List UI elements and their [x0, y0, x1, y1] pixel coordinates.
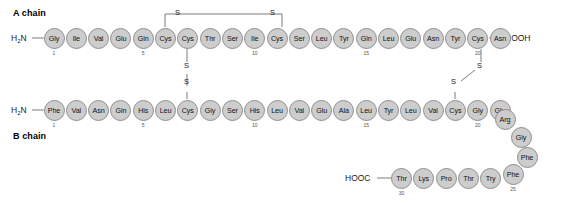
- residue-b16: Tyr: [378, 100, 399, 121]
- residue-b29: Lys: [413, 168, 434, 189]
- residue-b24: Phe: [517, 147, 538, 168]
- residue-b3: Asn: [88, 100, 109, 121]
- residue-b22: Arg: [495, 109, 516, 130]
- residue-number-b20: 20: [471, 122, 485, 128]
- n-terminus-subscript-b: 2: [17, 110, 20, 116]
- sulfur-label-a7: S: [184, 62, 189, 70]
- n-terminus-subscript: 2: [17, 38, 20, 44]
- residue-number-a5: 5: [136, 50, 150, 56]
- residue-b7: Cys: [177, 100, 198, 121]
- residue-number-a15: 15: [359, 50, 373, 56]
- bond-a20-b19-diagonal: [461, 70, 475, 81]
- residue-b18: Val: [423, 100, 444, 121]
- residue-a19: Tyr: [445, 28, 466, 49]
- residue-a2: Ile: [66, 28, 87, 49]
- residue-a8: Thr: [200, 28, 221, 49]
- residue-a12: Ser: [289, 28, 310, 49]
- residue-b20: Gly: [467, 100, 488, 121]
- residue-a10: Ile: [244, 28, 265, 49]
- residue-number-b25: 25: [506, 186, 520, 192]
- residue-a17: Glu: [400, 28, 421, 49]
- residue-b26: Try: [480, 168, 501, 189]
- b-chain-label: B chain: [13, 131, 46, 141]
- sulfur-label-b7: S: [184, 78, 189, 86]
- residue-b13: Glu: [311, 100, 332, 121]
- residue-b9: Ser: [222, 100, 243, 121]
- residue-a15: Gln: [356, 28, 377, 49]
- b-chain-c-terminus: HOOC: [345, 173, 371, 183]
- residue-a20: Cys: [467, 28, 488, 49]
- residue-b27: Thr: [458, 168, 479, 189]
- sulfur-label-a11: S: [270, 9, 275, 17]
- residue-number-a1: 1: [47, 50, 61, 56]
- residue-number-b1: 1: [47, 122, 61, 128]
- residue-a9: Ser: [222, 28, 243, 49]
- residue-number-b10: 10: [248, 122, 262, 128]
- residue-b4: Gln: [110, 100, 131, 121]
- residue-b1: Phe: [44, 100, 65, 121]
- residue-b11: Leu: [267, 100, 288, 121]
- residue-b2: Val: [66, 100, 87, 121]
- residue-b15: Leu: [356, 100, 377, 121]
- residue-b10: His: [244, 100, 265, 121]
- residue-a14: Tyr: [333, 28, 354, 49]
- residue-a11: Cys: [267, 28, 288, 49]
- residue-a13: Leu: [311, 28, 332, 49]
- insulin-structure-diagram: A chain H2N COOH B chain H2N HOOC S S S …: [0, 0, 563, 205]
- residue-a7: Cys: [177, 28, 198, 49]
- residue-number-a20: 20: [471, 50, 485, 56]
- residue-b30: Thr: [391, 168, 412, 189]
- residue-b28: Pro: [436, 168, 457, 189]
- residue-b8: Gly: [200, 100, 221, 121]
- b-chain-n-terminus: H2N: [11, 105, 27, 115]
- residue-b6: Leu: [155, 100, 176, 121]
- a-chain-label: A chain: [13, 8, 46, 18]
- residue-number-b15: 15: [359, 122, 373, 128]
- residue-a1: Gly: [44, 28, 65, 49]
- sulfur-label-a6: S: [175, 9, 180, 17]
- residue-b5: His: [133, 100, 154, 121]
- residue-a6: Cys: [155, 28, 176, 49]
- residue-a16: Leu: [378, 28, 399, 49]
- sulfur-label-b19: S: [451, 78, 456, 86]
- residue-b23: Gly: [511, 127, 532, 148]
- residue-a5: Gln: [133, 28, 154, 49]
- residue-b12: Val: [289, 100, 310, 121]
- residue-a3: Val: [88, 28, 109, 49]
- residue-b25: Phe: [503, 164, 524, 185]
- residue-number-a10: 10: [248, 50, 262, 56]
- sulfur-label-a20: S: [477, 62, 482, 70]
- residue-number-b5: 5: [136, 122, 150, 128]
- residue-a4: Glu: [110, 28, 131, 49]
- residue-a21: Asn: [490, 28, 511, 49]
- residue-b19: Cys: [445, 100, 466, 121]
- residue-number-b30: 30: [395, 190, 409, 196]
- residue-b17: Leu: [400, 100, 421, 121]
- residue-a18: Asn: [423, 28, 444, 49]
- residue-b14: Ala: [333, 100, 354, 121]
- a-chain-n-terminus: H2N: [11, 33, 27, 43]
